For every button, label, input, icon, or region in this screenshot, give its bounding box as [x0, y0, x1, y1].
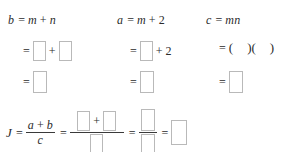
constant-two: 2: [166, 45, 172, 57]
variable-m: m: [137, 14, 146, 26]
fraction-boxes-simplified: [139, 108, 157, 152]
equals-sign: =: [123, 14, 137, 26]
equals-sign: =: [216, 42, 229, 54]
equals-sign: =: [127, 76, 140, 88]
fraction-boxes-expanded: +: [70, 110, 124, 152]
equals-sign: =: [14, 14, 28, 26]
answer-box-J-den-c[interactable]: [90, 134, 103, 152]
fraction-denominator: [139, 133, 157, 152]
variable-c: c: [38, 134, 44, 146]
variable-m: m: [28, 14, 37, 26]
fraction-numerator: a + b: [26, 119, 55, 132]
fraction-a-plus-b-over-c: a + b c: [26, 119, 55, 146]
answer-box-b-n[interactable]: [59, 41, 72, 61]
plus-sign: +: [153, 45, 166, 57]
variable-m: m: [225, 14, 234, 26]
fraction-denominator: c: [36, 133, 46, 146]
equation-c-line3: =: [216, 71, 243, 93]
equals-sign: =: [212, 14, 226, 26]
paren-open-icon: (: [229, 41, 233, 54]
equation-b-line3: =: [20, 71, 47, 93]
equals-sign: =: [20, 45, 33, 57]
answer-box-J-final[interactable]: [171, 120, 187, 145]
answer-box-c-result[interactable]: [229, 71, 243, 93]
equals-sign: =: [157, 127, 172, 139]
worksheet-page: b = m + n a = m + 2 c = m n = + = + 2 = …: [0, 0, 301, 152]
equation-J: J = a + b c = + =: [6, 108, 187, 152]
answer-box-b-m[interactable]: [33, 41, 46, 61]
variable-b: b: [47, 119, 53, 131]
variable-n: n: [234, 14, 240, 26]
equation-a-line1: a = m + 2: [117, 14, 165, 26]
equation-a-line3: =: [127, 71, 154, 93]
equals-sign: =: [12, 127, 26, 139]
equation-c-line1: c = m n: [206, 14, 240, 26]
fraction-numerator: [139, 108, 157, 132]
plus-sign: +: [146, 14, 159, 26]
equals-sign: =: [20, 76, 33, 88]
answer-box-a-m[interactable]: [140, 41, 153, 61]
fraction-numerator: +: [75, 110, 118, 132]
plus-sign: +: [46, 45, 59, 57]
plus-sign: +: [90, 115, 103, 127]
equation-b-line1: b = m + n: [8, 14, 56, 26]
answer-box-J-product[interactable]: [141, 134, 155, 152]
plus-sign: +: [34, 119, 47, 131]
paren-open-icon: (: [251, 41, 255, 54]
answer-box-J-sum[interactable]: [141, 109, 155, 131]
paren-close-icon: ): [270, 41, 274, 54]
equation-b-line2: = +: [20, 41, 72, 61]
answer-box-a-result[interactable]: [140, 71, 154, 93]
variable-n: n: [50, 14, 56, 26]
equation-c-line2: = ( ) ( ): [216, 41, 274, 54]
fraction-denominator: [88, 133, 105, 152]
constant-two: 2: [159, 14, 165, 26]
equation-a-line2: = + 2: [127, 41, 172, 61]
answer-box-b-result[interactable]: [33, 71, 47, 93]
equals-sign: =: [55, 127, 70, 139]
plus-sign: +: [37, 14, 50, 26]
equals-sign: =: [127, 45, 140, 57]
answer-box-J-num-a[interactable]: [77, 111, 90, 131]
answer-box-J-num-b[interactable]: [103, 111, 116, 131]
equals-sign: =: [216, 76, 229, 88]
equals-sign: =: [124, 127, 139, 139]
